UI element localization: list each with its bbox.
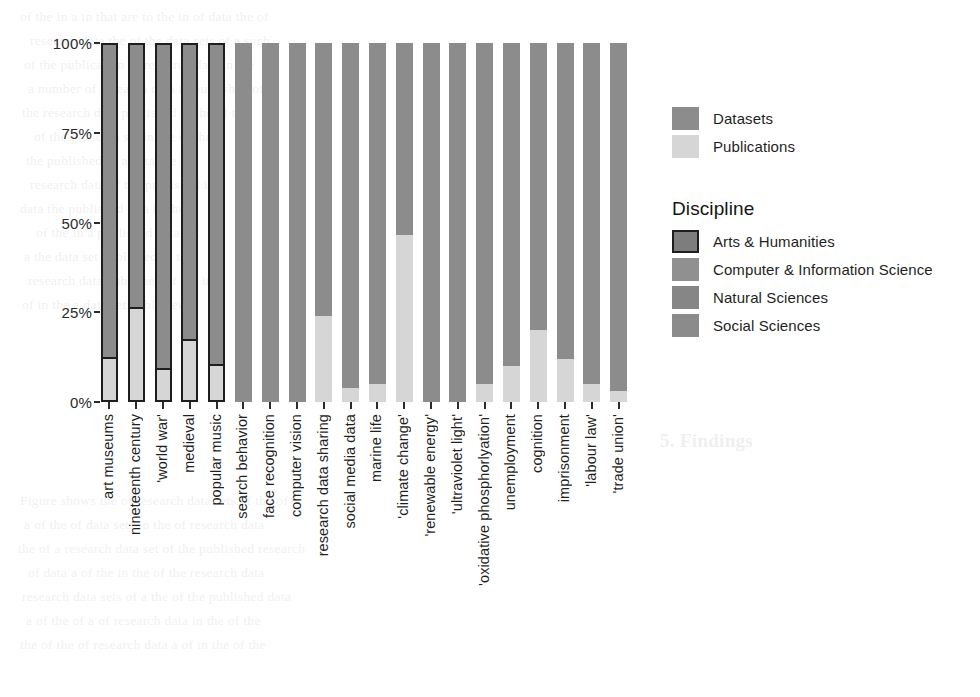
x-axis-tick-mark [269,402,271,409]
x-axis-tick-label: 'world war' [154,414,170,483]
bar-segment-datasets [103,45,116,361]
bar-segment-datasets [130,45,143,311]
legend-swatch-icon [672,314,699,337]
x-axis-tick-mark [189,402,191,409]
bar-segment-publications [503,366,520,402]
y-axis-tick-label: 50% [61,214,92,231]
x-axis-tick-mark [537,402,539,409]
legend-item-social-sciences[interactable]: Social Sciences [672,311,933,339]
bar-segment-publications [315,316,332,402]
x-axis-tick-mark [216,402,218,409]
bar--renewable-energy-[interactable] [423,43,440,402]
x-axis-tick-mark [162,402,164,409]
bar-marine-life[interactable] [369,43,386,402]
bar--ultraviolet-light-[interactable] [449,43,466,402]
bar-segment-datasets [610,43,627,391]
x-axis-tick-label: popular music [208,414,224,506]
x-axis-tick-label: 'oxidative phosphorlyation' [476,414,492,586]
bar--climate-change-[interactable] [396,43,413,402]
legend-discipline-title: Discipline [672,198,933,220]
legend-item-label: Publications [713,138,795,155]
bar-face-recognition[interactable] [262,43,279,402]
bar-research-data-sharing[interactable] [315,43,332,402]
x-axis-tick-mark [108,402,110,409]
x-axis-tick-label: cognition [529,414,545,473]
bar--world-war-[interactable] [155,43,172,402]
legend-item-publications[interactable]: Publications [672,132,795,160]
bar-segment-datasets [289,43,306,402]
bar-segment-datasets [262,43,279,402]
x-axis-tick-mark [350,402,352,409]
bar--trade-union-[interactable] [610,43,627,402]
y-axis-tick-label: 25% [61,304,92,321]
x-axis-tick-label: medieval [181,414,197,473]
x-axis-tick-label: 'renewable energy' [422,414,438,537]
x-axis-tick-mark [296,402,298,409]
bar-segment-publications [583,384,600,402]
legend-item-label: Computer & Information Science [713,261,933,278]
legend-fill: DatasetsPublications [672,104,795,160]
y-axis: 0%25%50%75%100% [0,0,104,420]
bar-segment-publications [210,364,223,400]
bar-segment-datasets [369,43,386,384]
legend-item-arts-humanities[interactable]: Arts & Humanities [672,227,933,255]
bar-imprisonment[interactable] [557,43,574,402]
bar-segment-datasets [557,43,574,359]
bar-computer-vision[interactable] [289,43,306,402]
bar--labour-law-[interactable] [583,43,600,402]
bar-segment-datasets [476,43,493,384]
bar-segment-publications [530,330,547,402]
x-axis-tick-label: social media data [342,414,358,529]
bar-segment-publications [557,359,574,402]
x-axis-tick-mark [376,402,378,409]
bar-segment-datasets [423,43,440,402]
x-axis-tick-label: 'climate change' [395,414,411,519]
x-axis-tick-label: 'trade union' [610,414,626,493]
y-axis-tick-label: 75% [61,124,92,141]
bar-popular-music[interactable] [208,43,225,402]
x-axis-tick-mark [135,402,137,409]
bar-segment-datasets [210,45,223,368]
bar-segment-publications [130,307,143,400]
legend-swatch-icon [672,135,699,158]
bar-segment-datasets [183,45,196,343]
bar-art-museums[interactable] [101,43,118,402]
y-axis-tick-label: 100% [53,35,92,52]
bar-nineteenth-century[interactable] [128,43,145,402]
legend-item-computer-information-science[interactable]: Computer & Information Science [672,255,933,283]
x-axis-tick-mark [242,402,244,409]
bar-segment-publications [476,384,493,402]
x-axis-tick-label: imprisonment [556,414,572,502]
bar-segment-datasets [396,43,413,235]
legend-discipline: Discipline Arts & HumanitiesComputer & I… [672,198,933,339]
x-axis-tick-label: computer vision [288,414,304,517]
bar-segment-publications [610,391,627,402]
bar-social-media-data[interactable] [342,43,359,402]
legend-item-label: Datasets [713,110,773,127]
legend-item-datasets[interactable]: Datasets [672,104,795,132]
x-axis-tick-label: research data sharing [315,414,331,556]
legend-swatch-icon [672,230,699,253]
plot-area [96,43,632,402]
bar--oxidative-phosphorlyation-[interactable] [476,43,493,402]
x-axis-tick-label: search behavior [234,414,250,519]
x-axis-tick-label: unemployment [502,414,518,510]
x-axis-tick-label: marine life [368,414,384,482]
y-axis-tick-label: 0% [70,394,92,411]
legend-swatch-icon [672,107,699,130]
bar-medieval[interactable] [181,43,198,402]
x-axis-tick-mark [323,402,325,409]
bar-search-behavior[interactable] [235,43,252,402]
bar-segment-datasets [235,43,252,402]
bar-segment-publications [157,368,170,400]
stacked-bar-chart: 0%25%50%75%100% art museumsnineteenth ce… [0,0,980,697]
bar-unemployment[interactable] [503,43,520,402]
bar-segment-publications [183,339,196,400]
x-axis-tick-mark [430,402,432,409]
x-axis-tick-mark [564,402,566,409]
bar-cognition[interactable] [530,43,547,402]
bar-segment-datasets [449,43,466,402]
x-axis-tick-mark [484,402,486,409]
legend-item-natural-sciences[interactable]: Natural Sciences [672,283,933,311]
bar-segment-datasets [583,43,600,384]
